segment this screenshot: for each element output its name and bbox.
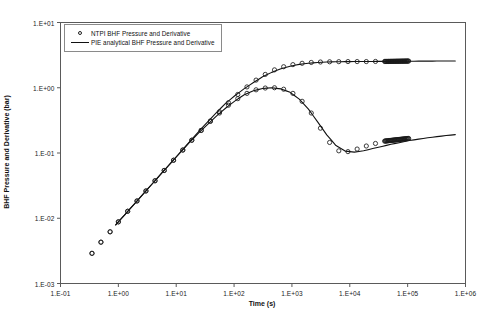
x-tick-label: 1.E+04 (339, 290, 360, 297)
x-tick-label: 1.E+00 (108, 290, 129, 297)
data-marker-derivative (337, 149, 341, 153)
analytical-curve-derivative (116, 88, 456, 225)
data-marker-derivative (373, 141, 377, 145)
chart-legend: NTPI BHF Pressure and Derivative PIE ana… (64, 24, 222, 52)
x-tick-label: 1.E-01 (51, 290, 71, 297)
data-marker-derivative (355, 147, 359, 151)
y-tick-label: 1.E-03 (35, 280, 55, 287)
x-tick-label: 1.E+06 (455, 290, 476, 297)
data-marker-derivative (328, 140, 332, 144)
data-marker-derivative (364, 144, 368, 148)
analytical-line-series (116, 61, 456, 225)
x-tick-label: 1.E+05 (397, 290, 418, 297)
solid-line-icon (69, 42, 91, 43)
measured-marker-series (90, 59, 411, 255)
chart-container: BHF Pressure and Derivative (bar) Time (… (0, 0, 492, 316)
legend-label-pie: PIE analytical BHF Pressure and Derivati… (91, 39, 215, 46)
data-marker-derivative (108, 230, 112, 234)
analytical-curve-pressure (116, 61, 456, 225)
y-tick-label: 1.E-01 (35, 150, 55, 157)
data-marker-derivative (90, 251, 94, 255)
x-tick-label: 1.E+02 (223, 290, 244, 297)
x-tick-label: 1.E+01 (166, 290, 187, 297)
open-circle-marker-icon (69, 31, 91, 35)
legend-item-pie: PIE analytical BHF Pressure and Derivati… (69, 38, 217, 47)
y-tick-label: 1.E+00 (33, 84, 54, 91)
y-tick-label: 1.E-02 (35, 215, 55, 222)
y-tick-label: 1.E+01 (33, 19, 54, 26)
y-axis-title: BHF Pressure and Derivative (bar) (3, 95, 10, 209)
legend-label-ntpi: NTPI BHF Pressure and Derivative (91, 30, 190, 37)
x-tick-label: 1.E+03 (281, 290, 302, 297)
legend-item-ntpi: NTPI BHF Pressure and Derivative (69, 29, 217, 38)
data-marker-derivative (99, 240, 103, 244)
x-axis-title: Time (s) (249, 300, 276, 307)
